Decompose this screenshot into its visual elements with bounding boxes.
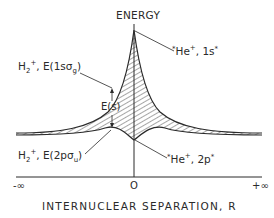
label-h2-1s-sigma-g: H2+, E(1sσg) xyxy=(18,61,81,72)
label-he-2p: *He+, 2p* xyxy=(167,154,214,165)
x-axis-label: INTERNUCLEAR SEPARATION, R xyxy=(42,201,237,212)
tick-zero: O xyxy=(130,181,138,191)
label-h2-2p-sigma-u: H2+, E(2pσu) xyxy=(18,150,82,161)
tick-plus-infinity: +∞ xyxy=(252,181,269,191)
arrowhead-up-icon xyxy=(110,88,114,93)
y-axis-label: ENERGY xyxy=(116,10,160,21)
leader-h2-2p-sigma-u xyxy=(85,130,111,154)
tick-minus-infinity: -∞ xyxy=(13,181,25,191)
leader-he-2p xyxy=(135,140,167,158)
label-splitting-energy: E(s) xyxy=(101,102,120,112)
leader-he-1s xyxy=(135,31,174,51)
label-he-1s: *He+, 1s* xyxy=(172,46,218,57)
leader-h2-1s-sigma-g xyxy=(80,73,112,88)
